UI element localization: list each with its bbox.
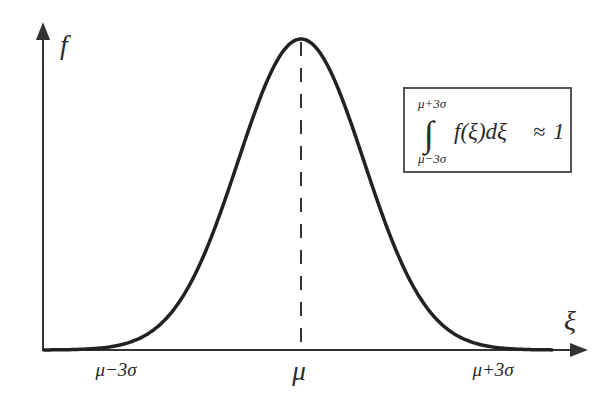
approx-sign: ≈ xyxy=(533,119,545,144)
integral-lower-limit: μ−3σ xyxy=(417,151,447,166)
integral-upper-limit: μ+3σ xyxy=(417,96,447,111)
x-axis-label: ξ xyxy=(564,305,576,336)
normal-distribution-figure: f ξ μ−3σ μ μ+3σ μ+3σ ∫ μ−3σ f(ξ)dξ ≈ 1 xyxy=(0,0,613,402)
tick-label-mu-plus-3sigma: μ+3σ xyxy=(471,359,514,380)
integrand: f(ξ)dξ xyxy=(454,119,507,144)
tick-label-mu: μ xyxy=(291,356,306,386)
tick-label-mu-minus-3sigma: μ−3σ xyxy=(94,359,137,380)
integral-annotation: μ+3σ ∫ μ−3σ f(ξ)dξ ≈ 1 xyxy=(404,88,571,172)
gaussian-curve xyxy=(44,39,552,350)
y-axis-label: f xyxy=(60,29,71,60)
integral-value: 1 xyxy=(553,119,565,144)
